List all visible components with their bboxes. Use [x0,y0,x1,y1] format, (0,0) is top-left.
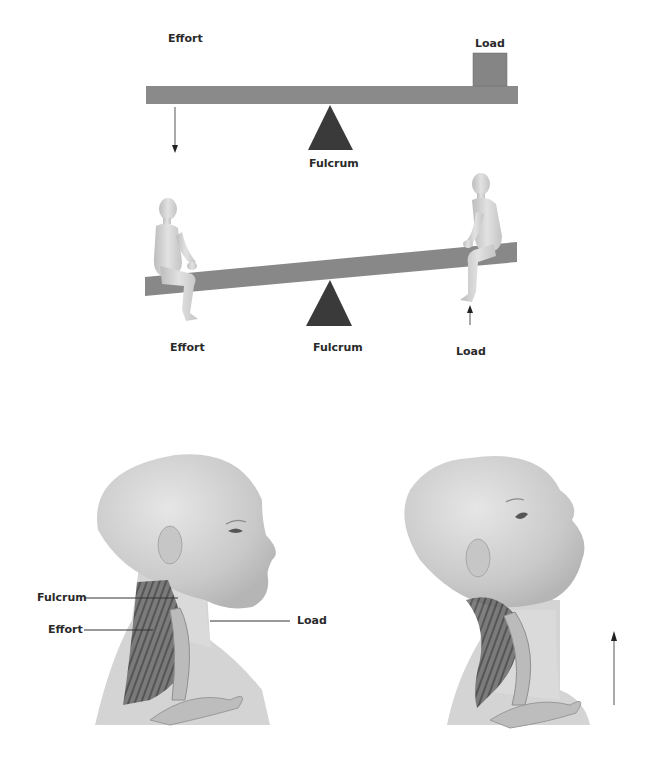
head-neutral-illustration [84,454,290,725]
head-extended-illustration [404,456,617,728]
effort-arrow-down [172,107,178,153]
load-arrow-up [467,305,473,325]
load-label-seesaw: Load [456,345,486,358]
effort-label-top: Effort [168,32,203,45]
diagram-canvas [0,0,666,762]
effort-label-head: Effort [48,623,83,636]
fulcrum-triangle [308,105,353,150]
lever-beam [146,86,518,104]
load-label-top: Load [475,37,505,50]
seesaw-panel [145,173,517,326]
effort-label-seesaw: Effort [170,341,205,354]
load-box [473,53,507,86]
fulcrum-label-top: Fulcrum [309,157,359,170]
human-figure-left [154,198,198,321]
fulcrum-triangle-2 [306,280,352,326]
balance-lever-panel [146,53,518,153]
human-figure-right [460,173,502,302]
load-label-head: Load [297,614,327,627]
fulcrum-label-seesaw: Fulcrum [313,341,363,354]
extension-arrow-up [611,631,617,705]
fulcrum-label-head: Fulcrum [37,591,87,604]
